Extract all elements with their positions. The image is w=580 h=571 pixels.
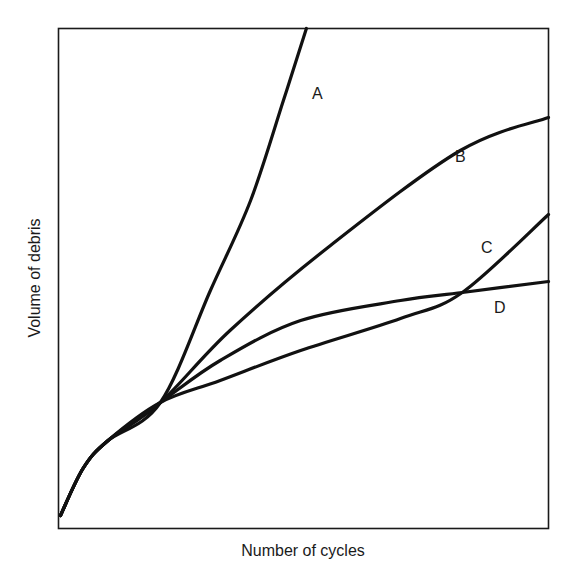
curve-d-label: D [494, 299, 506, 316]
curves-group [61, 29, 549, 516]
y-axis-label: Volume of debris [26, 218, 43, 337]
curve-c-label: C [481, 239, 493, 256]
curve-c-line [61, 215, 549, 516]
plot-frame [59, 29, 549, 529]
wear-debris-chart: A B C D Number of cycles Volume of debri… [0, 0, 580, 571]
curve-d-line [61, 282, 549, 516]
x-axis-label: Number of cycles [241, 542, 365, 559]
curve-b-label: B [455, 148, 466, 165]
curve-a-label: A [312, 85, 323, 102]
curve-b-line [61, 118, 549, 516]
curve-a-line [61, 29, 307, 516]
